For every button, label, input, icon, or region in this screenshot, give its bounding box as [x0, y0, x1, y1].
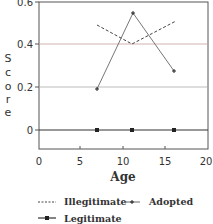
series-adopted: [95, 11, 176, 91]
legend: Illegitimate Adopted Legitimate: [38, 196, 193, 224]
series-legitimate: [39, 128, 208, 132]
legend-item-adopted: Adopted: [124, 196, 193, 207]
x-tick-15: 15: [159, 156, 172, 167]
line-chart: 0.6 0.4 0.2 0 0 5 10 15 20 Age S c o r e: [0, 0, 213, 224]
legend-item-legitimate: Legitimate: [38, 213, 122, 224]
svg-text:r: r: [6, 93, 11, 106]
svg-text:Adopted: Adopted: [148, 196, 193, 207]
plot-frame: [39, 2, 208, 149]
y-tick-0.6: 0.6: [17, 0, 33, 8]
x-axis-label: Age: [109, 170, 136, 184]
x-tick-5: 5: [77, 156, 83, 167]
y-axis-label: S c o r e: [5, 52, 12, 119]
y-axis-ticks: 0.6 0.4 0.2 0: [17, 0, 39, 136]
x-tick-0: 0: [36, 156, 42, 167]
x-tick-20: 20: [200, 156, 213, 167]
y-tick-0.4: 0.4: [17, 39, 33, 50]
svg-text:c: c: [5, 66, 11, 79]
series-illegitimate: [97, 21, 176, 44]
y-tick-0.2: 0.2: [17, 82, 33, 93]
svg-text:Legitimate: Legitimate: [64, 213, 122, 224]
svg-text:S: S: [5, 52, 12, 65]
legend-item-illegitimate: Illegitimate: [38, 196, 127, 207]
svg-text:Illegitimate: Illegitimate: [64, 196, 127, 207]
svg-text:e: e: [5, 106, 12, 119]
x-tick-10: 10: [117, 156, 130, 167]
y-tick-0: 0: [27, 125, 33, 136]
svg-text:o: o: [5, 80, 12, 93]
